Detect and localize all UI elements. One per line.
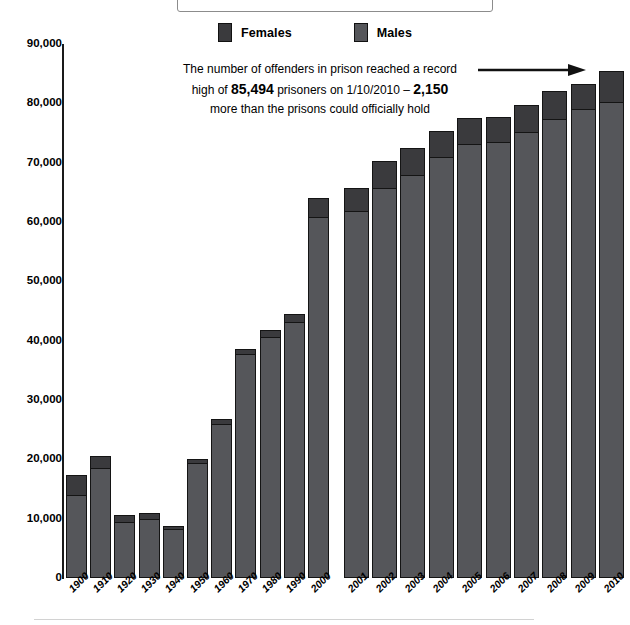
chart-plot-area: 90,00080,00070,00060,00050,00040,00030,0… <box>0 0 630 625</box>
bar-segment-males-2001 <box>345 212 368 577</box>
bar-segment-females-2000 <box>309 199 328 217</box>
bar-1960[interactable] <box>211 419 232 578</box>
bar-segment-males-2010 <box>600 103 623 577</box>
bar-segment-females-2008 <box>543 92 566 119</box>
bar-segment-males-2005 <box>458 145 481 577</box>
bar-segment-males-1970 <box>236 355 255 577</box>
footer-rule <box>34 619 534 620</box>
bar-segment-females-2005 <box>458 119 481 145</box>
bar-1990[interactable] <box>284 314 305 578</box>
bars-layer: 1900191019201930194019501960197019801990… <box>0 0 630 625</box>
bar-2004[interactable] <box>429 131 454 578</box>
bar-segment-females-2006 <box>487 118 510 143</box>
bar-segment-females-2003 <box>401 149 424 176</box>
bar-1920[interactable] <box>114 515 135 578</box>
bar-1900[interactable] <box>66 475 87 578</box>
bar-segment-males-2008 <box>543 120 566 577</box>
bar-2006[interactable] <box>486 117 511 578</box>
bar-segment-males-2007 <box>515 133 538 577</box>
bar-segment-females-1900 <box>67 476 86 496</box>
bar-1970[interactable] <box>235 349 256 578</box>
bar-2008[interactable] <box>542 91 567 578</box>
bar-segment-males-2006 <box>487 143 510 577</box>
bar-1910[interactable] <box>90 456 111 578</box>
bar-segment-males-2002 <box>373 189 396 577</box>
bar-segment-males-1950 <box>188 464 207 577</box>
bar-1980[interactable] <box>260 330 281 578</box>
bar-segment-females-2004 <box>430 132 453 158</box>
bar-segment-females-1990 <box>285 315 304 323</box>
bar-segment-females-2001 <box>345 189 368 212</box>
bar-segment-males-1930 <box>140 520 159 577</box>
bar-segment-males-2000 <box>309 218 328 577</box>
bar-segment-females-1920 <box>115 516 134 524</box>
bar-segment-males-2004 <box>430 158 453 577</box>
bar-segment-females-2010 <box>600 72 623 103</box>
bar-segment-females-2007 <box>515 106 538 133</box>
bar-segment-males-1920 <box>115 523 134 577</box>
bar-1940[interactable] <box>163 526 184 578</box>
bar-segment-males-2009 <box>572 110 595 577</box>
bar-2000[interactable] <box>308 198 329 578</box>
bar-2007[interactable] <box>514 105 539 578</box>
bar-2010[interactable] <box>599 71 624 578</box>
bar-2001[interactable] <box>344 188 369 578</box>
bar-2005[interactable] <box>457 118 482 578</box>
bar-segment-females-1910 <box>91 457 110 469</box>
bar-segment-males-1990 <box>285 323 304 577</box>
bar-2009[interactable] <box>571 84 596 578</box>
bar-1930[interactable] <box>139 513 160 578</box>
bar-segment-males-1980 <box>261 338 280 577</box>
bar-segment-females-2009 <box>572 85 595 110</box>
bar-2002[interactable] <box>372 161 397 578</box>
bar-segment-males-2003 <box>401 176 424 577</box>
bar-1950[interactable] <box>187 459 208 578</box>
bar-2003[interactable] <box>400 148 425 578</box>
bar-segment-females-1980 <box>261 331 280 338</box>
bar-segment-males-1900 <box>67 496 86 577</box>
bar-segment-males-1910 <box>91 469 110 577</box>
bar-segment-females-2002 <box>373 162 396 188</box>
bar-segment-males-1960 <box>212 425 231 577</box>
